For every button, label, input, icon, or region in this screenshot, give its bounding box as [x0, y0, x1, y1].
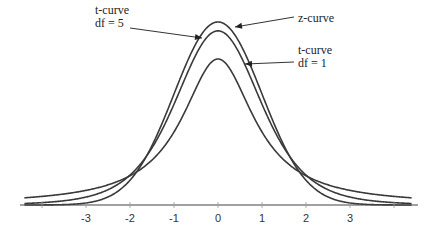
x-tick-label: 0 [215, 212, 221, 224]
curve-z-curve [24, 22, 411, 205]
curve-t-curve-df-5 [24, 31, 411, 204]
curves-group [24, 22, 411, 205]
annotation-z-curve: z-curve [235, 11, 334, 29]
t-distribution-chart: -3-2-10123 z-curvet-curvedf = 5t-curvedf… [0, 0, 435, 234]
annotation-text: df = 1 [298, 56, 327, 70]
annotation-t-curve-df-5: t-curvedf = 5 [95, 3, 202, 40]
x-tick-label: 2 [303, 212, 309, 224]
x-tick-label: -3 [81, 212, 91, 224]
annotation-arrow-line [245, 62, 294, 64]
annotation-text: t-curve [95, 3, 129, 17]
x-tick-label: 1 [259, 212, 265, 224]
annotation-arrow-line [235, 17, 294, 27]
arrowhead-icon [235, 23, 242, 29]
x-tick-label: 3 [347, 212, 353, 224]
annotation-arrow-line [130, 28, 202, 38]
x-tick-label: -1 [169, 212, 179, 224]
annotation-text: df = 5 [95, 16, 124, 30]
annotation-t-curve-df-1: t-curvedf = 1 [245, 43, 332, 70]
x-tick-label: -2 [125, 212, 135, 224]
annotation-text: z-curve [298, 11, 334, 25]
curve-t-curve-df-1 [24, 59, 411, 198]
annotation-text: t-curve [298, 43, 332, 57]
